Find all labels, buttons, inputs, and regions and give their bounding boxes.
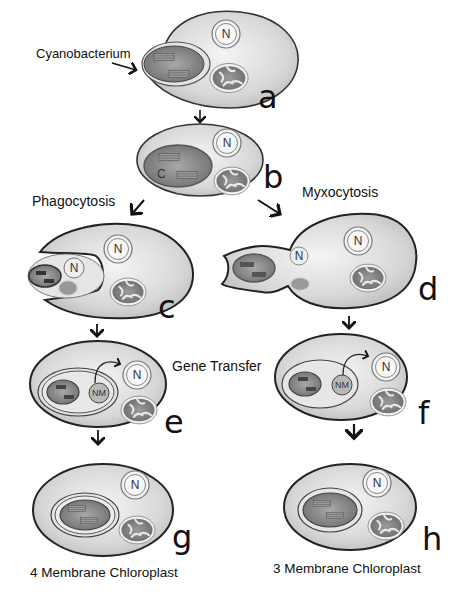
chloroplast-b [144,145,212,187]
chloroplast-d [233,254,275,282]
mitochondrion-icon [370,388,406,416]
mitochondrion-icon [350,264,386,292]
cyanobacterium-pointer-arrow [112,63,136,70]
chloroplast-label: C [157,167,166,181]
nucleomorph-label: NM [92,388,106,398]
nucleus-label: N [223,136,232,150]
mitochondrion-icon [214,167,250,195]
arrow-b-to-c [132,200,144,214]
mitochondrion-icon [110,278,146,306]
stage-label-d: d [418,270,438,308]
stage-a: N Cyanobacterium a [36,11,298,116]
stage-label-c: c [158,288,176,326]
stage-label-f: f [418,394,430,432]
nucleus-label: N [295,249,304,263]
arrow-b-to-d [258,200,280,214]
nucleus-label: N [114,242,123,256]
stage-d: N N d [222,214,438,309]
chloroplast-g [60,500,110,530]
chloroplast-e [47,380,79,404]
nucleus-label: N [354,234,363,248]
stage-label-g: g [172,518,192,556]
stage-g: N g [33,464,192,556]
stage-c: N N c [28,224,193,326]
nucleus-label: N [133,368,142,382]
chloroplast-h [303,493,357,527]
four-membrane-chloroplast-label: 4 Membrane Chloroplast [30,565,178,580]
stage-b: C N b [137,124,283,196]
nucleus-label: N [70,261,79,275]
phagocytosis-label: Phagocytosis [32,193,115,209]
mitochondrion-icon [119,516,155,544]
cyanobacterium-label: Cyanobacterium [36,46,131,61]
stage-f: NM N f [275,334,430,432]
mitochondrion-icon [210,63,248,92]
mitochondrion-icon [121,396,157,424]
stage-e: NM N e [30,341,184,441]
chloroplast-f [289,372,321,396]
stage-h: N h [284,464,442,558]
endosymbiosis-diagram: N Cyanobacterium a C N b Phagocytosis My… [0,0,467,604]
stage-label-e: e [164,403,184,441]
myxocytosis-label: Myxocytosis [302,184,378,200]
mitochondrion-icon [291,278,309,290]
three-membrane-chloroplast-label: 3 Membrane Chloroplast [273,561,421,576]
mitochondrion-icon [368,512,404,540]
nucleus-label: N [373,476,382,490]
nucleus-label: N [222,27,231,41]
mitochondrion-icon [59,281,77,295]
nucleus-label: N [382,360,391,374]
stage-label-h: h [422,520,442,558]
nucleus-label: N [131,478,140,492]
gene-transfer-label: Gene Transfer [172,358,262,374]
stage-label-b: b [263,158,283,196]
stage-label-a: a [258,78,278,116]
nucleomorph-label: NM [335,380,349,390]
chloroplast-c [29,265,61,287]
